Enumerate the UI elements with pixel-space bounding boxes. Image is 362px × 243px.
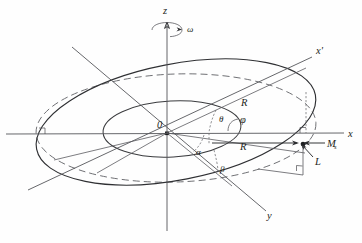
inner-ring-ellipse xyxy=(102,97,243,160)
R-upper-label: R xyxy=(240,97,248,108)
right-angle-lower xyxy=(297,166,303,172)
axis-x-prime-label: x' xyxy=(315,45,324,56)
radius-line-left xyxy=(54,133,167,160)
axis-y-line xyxy=(72,47,266,211)
axis-x-prime: x' xyxy=(28,45,324,190)
axis-x-prime-line xyxy=(28,57,312,190)
orbit-diagram: z x x' y ω 0 θ xyxy=(0,0,362,243)
axis-z: z xyxy=(162,5,169,231)
horizontal-ring-dashed xyxy=(34,69,318,187)
origin-label: 0 xyxy=(157,119,163,130)
axis-z-label: z xyxy=(162,5,167,16)
omega-label: ω xyxy=(187,24,193,34)
inner-ring xyxy=(102,97,243,160)
L-label: L xyxy=(314,156,321,167)
alpha-label: α xyxy=(196,147,201,157)
axis-x-label: x xyxy=(347,128,353,139)
radial-lines xyxy=(54,68,306,186)
beta-label: β xyxy=(219,164,225,174)
tilted-ring-ellipse xyxy=(26,38,327,206)
theta-label: θ xyxy=(219,114,224,124)
phi-leader xyxy=(228,119,238,131)
L-vector: L xyxy=(301,144,321,167)
horizontal-ring-ellipse xyxy=(34,69,318,187)
axis-y-label: y xyxy=(266,210,272,221)
figure-root: z x x' y ω 0 θ xyxy=(0,0,362,243)
Ms-subscript: s xyxy=(334,143,337,150)
omega-rotation-symbol: ω xyxy=(152,23,193,37)
phi-label: φ xyxy=(240,114,246,125)
tilted-ring-outer xyxy=(26,38,327,206)
Ms-vector: M s xyxy=(303,138,337,150)
